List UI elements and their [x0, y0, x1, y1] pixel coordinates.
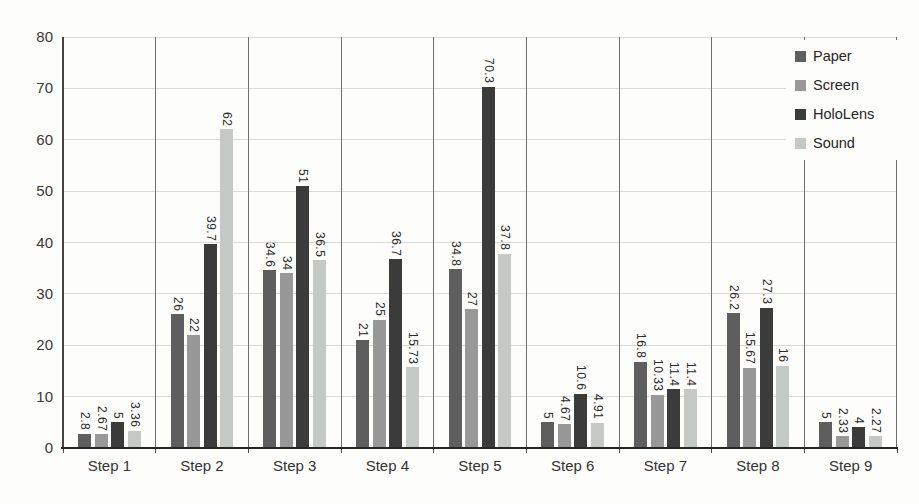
bar-value-label: 22	[186, 318, 201, 332]
bar-value-label: 26.2	[726, 285, 741, 310]
bar-screen-step-6	[558, 424, 571, 448]
y-tick-label-30: 30	[3, 285, 53, 302]
bar-screen-step-5	[465, 309, 478, 448]
bar-screen-step-1	[95, 434, 108, 448]
bar-sound-step-1	[128, 431, 141, 448]
bar-sound-step-4	[406, 367, 419, 448]
bar-value-label: 21	[355, 323, 370, 337]
gridline-50	[63, 191, 897, 192]
gridline-80	[63, 37, 897, 38]
y-tick-label-50: 50	[3, 182, 53, 199]
bar-value-label: 36.7	[388, 231, 403, 256]
y-tick-label-60: 60	[3, 131, 53, 148]
bar-sound-step-3	[313, 260, 326, 448]
bar-value-label: 10.33	[650, 359, 665, 392]
bar-value-label: 11.4	[666, 362, 681, 386]
y-tick-label-40: 40	[3, 234, 53, 251]
bar-value-label: 27.3	[759, 279, 774, 304]
bar-value-label: 2.27	[868, 408, 883, 433]
bar-value-label: 5	[110, 412, 125, 419]
bar-paper-step-2	[171, 314, 184, 448]
y-axis-line	[62, 37, 64, 448]
legend-item-paper: Paper	[795, 47, 914, 65]
legend-label-sound: Sound	[813, 135, 855, 151]
bar-value-label: 15.73	[405, 332, 420, 365]
category-separator	[341, 37, 342, 448]
bar-value-label: 37.8	[497, 225, 512, 250]
bar-value-label: 5	[818, 412, 833, 419]
bar-sound-step-5	[498, 254, 511, 448]
category-separator	[619, 37, 620, 448]
bar-value-label: 4.91	[590, 394, 605, 419]
bar-value-label: 4	[851, 417, 866, 424]
category-separator	[711, 37, 712, 448]
bar-hololens-step-2	[204, 244, 217, 448]
bar-screen-step-7	[651, 395, 664, 448]
y-tick-label-20: 20	[3, 336, 53, 353]
x-category-label-step-1: Step 1	[63, 457, 156, 474]
legend-swatch-hololens-icon	[795, 109, 806, 120]
category-separator	[155, 37, 156, 448]
legend-item-hololens: HoloLens	[795, 105, 914, 123]
grouped-bar-chart: 2.82634.62134.8516.826.252.67223425274.6…	[0, 0, 919, 504]
bar-value-label: 34.6	[262, 242, 277, 267]
bar-paper-step-5	[449, 269, 462, 448]
bar-value-label: 27	[464, 292, 479, 306]
bar-paper-step-9	[819, 422, 832, 448]
x-category-label-step-4: Step 4	[341, 457, 434, 474]
bar-value-label: 16.8	[633, 333, 648, 358]
bar-screen-step-4	[373, 320, 386, 448]
category-separator	[526, 37, 527, 448]
bar-value-label: 36.5	[312, 232, 327, 257]
legend-item-sound: Sound	[795, 134, 914, 152]
y-tick-label-70: 70	[3, 79, 53, 96]
y-tick-label-0: 0	[3, 439, 53, 456]
bar-hololens-step-1	[111, 422, 124, 448]
legend-label-screen: Screen	[813, 77, 859, 93]
bar-value-label: 26	[170, 297, 185, 311]
bar-value-label: 34.8	[448, 241, 463, 266]
y-tick-label-80: 80	[3, 28, 53, 45]
x-category-label-step-5: Step 5	[434, 457, 527, 474]
bar-hololens-step-4	[389, 259, 402, 448]
bar-paper-step-8	[727, 313, 740, 448]
bar-paper-step-7	[634, 362, 647, 448]
legend-item-screen: Screen	[795, 76, 914, 94]
bar-paper-step-1	[78, 434, 91, 448]
x-category-label-step-9: Step 9	[804, 457, 897, 474]
bar-hololens-step-9	[852, 427, 865, 448]
bar-paper-step-6	[541, 422, 554, 448]
bar-value-label: 4.67	[557, 396, 572, 421]
bar-value-label: 2.67	[94, 406, 109, 431]
category-separator	[433, 37, 434, 448]
x-axis-line	[61, 447, 898, 449]
bar-sound-step-2	[220, 129, 233, 448]
legend-swatch-screen-icon	[795, 80, 806, 91]
bar-paper-step-3	[263, 270, 276, 448]
bar-value-label: 34	[279, 256, 294, 270]
bar-hololens-step-6	[574, 394, 587, 448]
bar-sound-step-8	[776, 366, 789, 448]
bar-value-label: 15.67	[742, 332, 757, 365]
bar-value-label: 2.8	[77, 412, 92, 430]
bar-value-label: 11.4	[683, 362, 698, 386]
x-category-label-step-3: Step 3	[248, 457, 341, 474]
legend: PaperScreenHoloLensSound	[786, 40, 914, 160]
bar-screen-step-2	[187, 335, 200, 448]
bar-screen-step-8	[743, 368, 756, 449]
bar-value-label: 39.7	[203, 216, 218, 241]
bar-value-label: 25	[372, 302, 387, 316]
bar-screen-step-3	[280, 273, 293, 448]
gridline-60	[63, 139, 897, 140]
plot-area: 2.82634.62134.8516.826.252.67223425274.6…	[63, 37, 897, 448]
bar-value-label: 5	[540, 412, 555, 419]
legend-swatch-paper-icon	[795, 51, 806, 62]
x-category-label-step-2: Step 2	[156, 457, 249, 474]
bar-value-label: 10.6	[573, 365, 588, 390]
x-category-label-step-6: Step 6	[526, 457, 619, 474]
x-category-label-step-8: Step 8	[712, 457, 805, 474]
y-tick-label-10: 10	[3, 388, 53, 405]
legend-label-paper: Paper	[813, 48, 852, 64]
gridline-40	[63, 242, 897, 243]
bar-value-label: 51	[295, 169, 310, 183]
